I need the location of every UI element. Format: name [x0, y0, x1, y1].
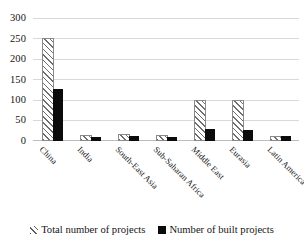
y-tick-250: 250	[10, 33, 26, 44]
y-tick-300: 300	[10, 13, 26, 24]
bar-group	[109, 18, 147, 141]
solid-swatch-icon	[158, 226, 166, 234]
y-tick-0: 0	[21, 136, 26, 147]
y-tick-50: 50	[15, 115, 26, 126]
y-tick-100: 100	[10, 95, 26, 106]
legend-label-built: Number of built projects	[169, 225, 273, 236]
bar-group	[261, 18, 299, 141]
hatch-swatch-icon	[30, 226, 38, 234]
bar-group	[33, 18, 71, 141]
bar-built-middle-east	[205, 129, 215, 141]
bar-built-china	[53, 89, 63, 141]
x-axis-labels: ChinaIndiaSouth-East AsiaSub-Saharan Afr…	[33, 141, 299, 213]
legend-label-total: Total number of projects	[41, 225, 145, 236]
bar-chart: 300 250 200 150 100 50 0 ChinaIndiaSouth…	[0, 0, 304, 240]
legend-item-total[interactable]: Total number of projects	[30, 225, 145, 236]
y-axis-labels: 300 250 200 150 100 50 0	[0, 18, 31, 141]
x-label-india: India	[76, 145, 95, 164]
chart-legend: Total number of projects Number of built…	[0, 222, 304, 238]
y-tick-200: 200	[10, 54, 26, 65]
legend-item-built[interactable]: Number of built projects	[158, 225, 273, 236]
bar-built-eurasia	[243, 130, 253, 141]
x-label-middle-east: Middle East	[190, 145, 226, 181]
plot-area	[33, 18, 299, 141]
y-tick-150: 150	[10, 74, 26, 85]
bar-group	[223, 18, 261, 141]
bar-group	[147, 18, 185, 141]
bar-group	[185, 18, 223, 141]
x-label-eurasia: Eurasia	[228, 145, 253, 170]
x-label-china: China	[38, 145, 59, 166]
bar-groups	[33, 18, 299, 141]
x-label-latin-america: Latin America	[266, 145, 304, 186]
bar-group	[71, 18, 109, 141]
